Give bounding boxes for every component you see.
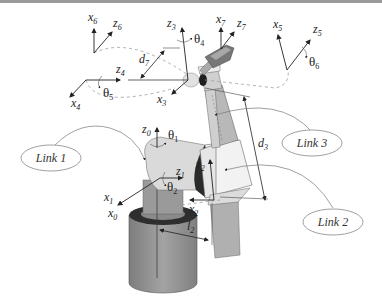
label-theta6: θ6 <box>309 54 319 71</box>
label-z0: z0 <box>141 122 151 138</box>
label-x3: x3 <box>156 92 166 108</box>
frame-7: x7 z7 <box>215 12 247 49</box>
frame-4: z4 x4 θ5 <box>70 62 188 112</box>
label-z4: z4 <box>115 62 125 78</box>
label-x0: x0 <box>107 206 117 222</box>
label-d3: d3 <box>258 136 268 152</box>
frame-5: x5 z5 θ6 <box>272 17 322 71</box>
frame-6: x6 z6 <box>87 10 122 53</box>
label-z7: z7 <box>236 16 247 32</box>
link1-callout: Link 1 <box>21 126 145 171</box>
label-d7: d7 <box>139 52 150 68</box>
dimension-d7: d7 <box>139 48 180 78</box>
label-theta5: θ5 <box>103 85 113 102</box>
label-z5: z5 <box>312 22 322 38</box>
diagram-canvas: x6 z6 z4 x4 θ5 d7 z3 x3 θ4 <box>0 0 382 305</box>
label-x1: x1 <box>103 190 113 206</box>
link1-label: Link 1 <box>35 151 66 165</box>
link3-label: Link 3 <box>296 136 327 150</box>
label-x4: x4 <box>70 96 80 112</box>
label-x6: x6 <box>87 10 97 26</box>
label-x7: x7 <box>215 12 226 28</box>
label-x2: x2 <box>188 202 198 218</box>
label-theta4: θ4 <box>194 31 204 48</box>
link2-label: Link 2 <box>317 215 348 229</box>
label-z3: z3 <box>166 16 176 32</box>
label-theta1: θ1 <box>168 127 178 144</box>
robot-arm-diagram: x6 z6 z4 x4 θ5 d7 z3 x3 θ4 <box>0 0 382 305</box>
frame-3: z3 x3 θ4 <box>156 16 204 108</box>
label-x5: x5 <box>272 17 282 33</box>
label-z6: z6 <box>112 16 122 32</box>
